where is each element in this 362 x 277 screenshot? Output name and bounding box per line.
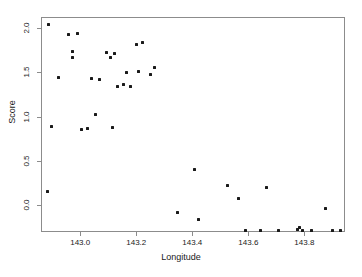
data-point xyxy=(153,66,156,69)
data-point xyxy=(176,211,179,214)
data-point xyxy=(71,50,74,53)
data-point xyxy=(90,77,93,80)
data-point xyxy=(122,83,125,86)
data-point xyxy=(135,43,138,46)
data-point xyxy=(149,73,152,76)
data-point xyxy=(301,229,304,232)
data-point xyxy=(129,85,132,88)
data-point xyxy=(324,207,327,210)
data-point xyxy=(80,128,83,131)
x-tick-label: 143.2 xyxy=(126,238,146,247)
x-tick-label: 143.4 xyxy=(182,238,202,247)
data-point xyxy=(67,33,70,36)
data-point xyxy=(125,71,128,74)
data-point xyxy=(50,125,53,128)
y-tick-label: 1.5 xyxy=(22,67,31,78)
y-tick-mark xyxy=(37,72,41,73)
y-tick-mark xyxy=(37,205,41,206)
x-tick-label: 143.6 xyxy=(238,238,258,247)
data-point xyxy=(46,190,49,193)
data-point xyxy=(111,126,114,129)
y-tick-mark xyxy=(37,28,41,29)
x-tick-mark xyxy=(304,232,305,236)
y-tick-label: 2.0 xyxy=(22,22,31,33)
data-point xyxy=(47,23,50,26)
x-tick-label: 143.8 xyxy=(294,238,314,247)
y-tick-label: 1.0 xyxy=(22,111,31,122)
data-point xyxy=(193,168,196,171)
data-points-layer xyxy=(42,18,344,231)
x-axis-label: Longitude xyxy=(0,252,362,262)
y-tick-label: 0.0 xyxy=(22,200,31,211)
y-tick-label: 0.5 xyxy=(22,155,31,166)
x-tick-mark xyxy=(136,232,137,236)
x-tick-mark xyxy=(80,232,81,236)
y-tick-mark xyxy=(37,161,41,162)
data-point xyxy=(98,78,101,81)
data-point xyxy=(237,197,240,200)
x-tick-mark xyxy=(248,232,249,236)
data-point xyxy=(226,184,229,187)
data-point xyxy=(76,32,79,35)
scatter-plot-figure: 143.0143.2143.4143.6143.8 0.00.51.01.52.… xyxy=(0,0,362,277)
data-point xyxy=(71,56,74,59)
data-point xyxy=(94,113,97,116)
data-point xyxy=(141,41,144,44)
data-point xyxy=(277,229,280,232)
x-tick-label: 143.0 xyxy=(70,238,90,247)
data-point xyxy=(265,186,268,189)
data-point xyxy=(86,127,89,130)
data-point xyxy=(113,52,116,55)
data-point xyxy=(310,229,313,232)
data-point xyxy=(244,229,247,232)
data-point xyxy=(197,218,200,221)
y-axis-label: Score xyxy=(7,82,17,142)
data-point xyxy=(116,85,119,88)
plot-area-frame xyxy=(41,17,345,232)
data-point xyxy=(57,76,60,79)
data-point xyxy=(339,229,342,232)
data-point xyxy=(137,70,140,73)
data-point xyxy=(109,56,112,59)
x-tick-mark xyxy=(192,232,193,236)
data-point xyxy=(105,51,108,54)
data-point xyxy=(259,229,262,232)
data-point xyxy=(331,229,334,232)
y-tick-mark xyxy=(37,117,41,118)
